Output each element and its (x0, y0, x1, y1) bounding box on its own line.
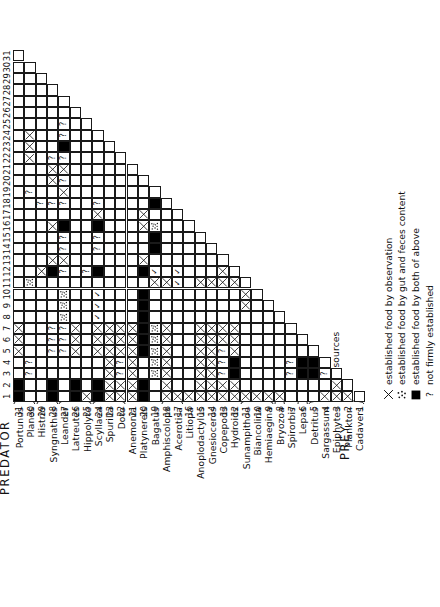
matrix-cell-p19-d6 (149, 334, 160, 345)
matrix-cell-p27-d23 (58, 141, 69, 152)
matrix-cell-p18-d1 (161, 391, 172, 402)
legend-text-dots: established food by gut and feces conten… (396, 191, 407, 385)
matrix-cell-p18-d4 (161, 357, 172, 368)
matrix-cell-p24-d21 (92, 164, 103, 175)
prey-index-22: 22 (116, 406, 126, 424)
matrix-cell-p23-d14 (104, 243, 115, 254)
matrix-cell-p25-d6 (81, 334, 92, 345)
predator-index-25: 25 (2, 118, 12, 129)
matrix-cell-p26-d8 (70, 311, 81, 322)
matrix-cell-p10-d3 (251, 368, 262, 379)
matrix-cell-p15-d1 (195, 391, 206, 402)
matrix-cell-p10-d4 (251, 357, 262, 368)
matrix-cell-p28-d10 (47, 289, 58, 300)
prey-index-20: 20 (139, 406, 149, 424)
matrix-cell-p27-d9 (58, 300, 69, 311)
matrix-cell-p27-d15: ? (58, 232, 69, 243)
matrix-cell-p26-d19 (70, 186, 81, 197)
prey-index-17: 17 (173, 406, 183, 424)
matrix-cell-p13-d11 (217, 277, 228, 288)
matrix-cell-p30-d14 (24, 243, 35, 254)
matrix-cell-p28-d3 (47, 368, 58, 379)
matrix-cell-p27-d11 (58, 277, 69, 288)
predator-index-12: 12 (2, 266, 12, 277)
matrix-cell-p26-d22 (70, 152, 81, 163)
matrix-cell-p30-d3: ? (24, 368, 35, 379)
matrix-cell-p15-d8 (195, 311, 206, 322)
matrix-cell-p22-d8 (115, 311, 126, 322)
matrix-cell-p20-d13 (138, 254, 149, 265)
matrix-cell-p13-d8 (217, 311, 228, 322)
matrix-cell-p21-d16 (127, 220, 138, 231)
matrix-cell-p26-d23 (70, 141, 81, 152)
matrix-cell-p22-d7 (115, 323, 126, 334)
matrix-cell-p20-d5 (138, 345, 149, 356)
matrix-cell-p8-d6 (274, 334, 285, 345)
prey-index-13: 13 (219, 406, 229, 424)
matrix-cell-p28-d12 (47, 266, 58, 277)
matrix-cell-p28-d11 (47, 277, 58, 288)
matrix-cell-p30-d22 (24, 152, 35, 163)
matrix-cell-p29-d20 (36, 175, 47, 186)
matrix-cell-p4-d1 (319, 391, 330, 402)
matrix-cell-p8-d3 (274, 368, 285, 379)
matrix-cell-p22-d13 (115, 254, 126, 265)
matrix-cell-p25-d8 (81, 311, 92, 322)
matrix-cell-p16-d13 (183, 254, 194, 265)
matrix-cell-p19-d17 (149, 209, 160, 220)
legend-text-q: not firmly established (424, 285, 435, 385)
matrix-cell-p19-d7 (149, 323, 160, 334)
legend-key-x-icon (383, 389, 394, 400)
matrix-cell-p31-d16 (13, 220, 24, 231)
matrix-cell-p16-d1 (183, 391, 194, 402)
matrix-cell-p26-d14 (70, 243, 81, 254)
matrix-cell-p8-d7 (274, 323, 285, 334)
legend: established food by observationestablish… (383, 70, 440, 400)
matrix-cell-p9-d5 (263, 345, 274, 356)
predator-index-16: 16 (2, 220, 12, 231)
matrix-cell-p31-d24 (13, 130, 24, 141)
matrix-cell-p28-d24 (47, 130, 58, 141)
matrix-cell-p27-d3 (58, 368, 69, 379)
matrix-cell-p31-d3 (13, 368, 24, 379)
matrix-cell-p25-d12: ? (81, 266, 92, 277)
matrix-cell-p15-d3 (195, 368, 206, 379)
matrix-cell-p2-d2 (342, 379, 353, 390)
matrix-cell-p20-d12 (138, 266, 149, 277)
matrix-cell-p12-d11 (229, 277, 240, 288)
matrix-cell-p23-d23 (104, 141, 115, 152)
prey-index-31: 31 (14, 406, 24, 424)
matrix-cell-p24-d18: ? (92, 198, 103, 209)
matrix-cell-p22-d14 (115, 243, 126, 254)
matrix-cell-p23-d21 (104, 164, 115, 175)
matrix-cell-p27-d16 (58, 220, 69, 231)
matrix-cell-p24-d19 (92, 186, 103, 197)
prey-index-16: 16 (184, 406, 194, 424)
matrix-cell-p31-d9 (13, 300, 24, 311)
matrix-cell-p20-d14 (138, 243, 149, 254)
prey-index-8: 8 (275, 406, 285, 424)
matrix-cell-p27-d10 (58, 289, 69, 300)
matrix-cell-p12-d7 (229, 323, 240, 334)
matrix-cell-p26-d20 (70, 175, 81, 186)
matrix-cell-p19-d19 (149, 186, 160, 197)
predator-axis-title: PREDATOR (0, 420, 12, 495)
matrix-cell-p27-d1 (58, 391, 69, 402)
matrix-cell-p6-d3 (297, 368, 308, 379)
matrix-cell-p25-d16 (81, 220, 92, 231)
matrix-cell-p31-d11 (13, 277, 24, 288)
matrix-cell-p15-d14 (195, 243, 206, 254)
matrix-cell-p21-d13 (127, 254, 138, 265)
matrix-cell-p25-d25 (81, 118, 92, 129)
matrix-cell-p20-d19 (138, 186, 149, 197)
matrix-cell-p26-d15 (70, 232, 81, 243)
matrix-cell-p26-d17 (70, 209, 81, 220)
matrix-cell-p20-d16 (138, 220, 149, 231)
matrix-cell-p26-d5 (70, 345, 81, 356)
predator-index-8: 8 (2, 311, 12, 322)
matrix-cell-p11-d6 (240, 334, 251, 345)
matrix-cell-p15-d4 (195, 357, 206, 368)
matrix-cell-p28-d5: ? (47, 345, 58, 356)
matrix-cell-p21-d14 (127, 243, 138, 254)
